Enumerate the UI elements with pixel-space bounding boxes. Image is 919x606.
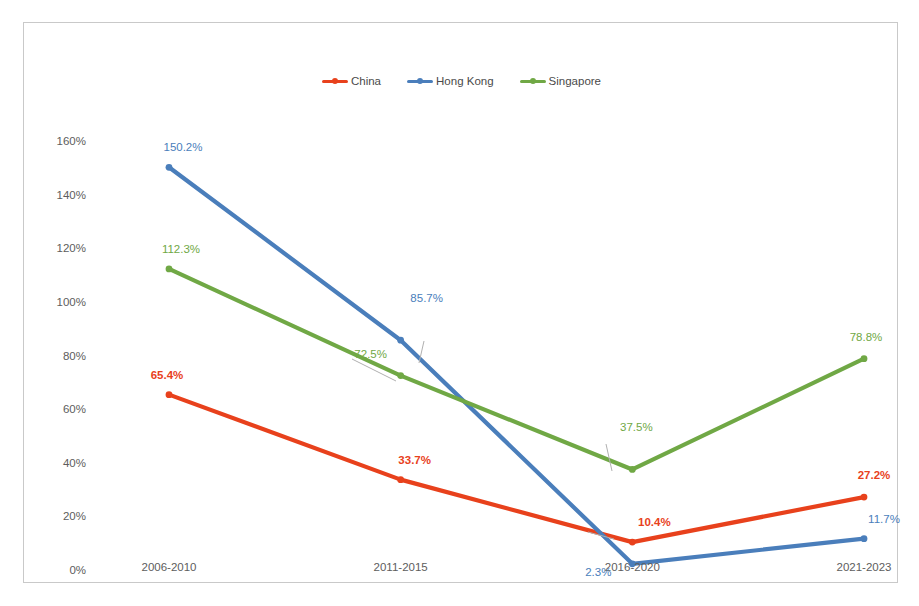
- plot-area: [24, 23, 899, 584]
- data-label: 72.5%: [354, 348, 387, 360]
- y-axis-tick-label: 60%: [40, 403, 86, 415]
- y-axis-tick-label: 140%: [40, 189, 86, 201]
- y-axis-tick-label: 80%: [40, 350, 86, 362]
- data-point-marker: [861, 355, 868, 362]
- y-axis-tick-label: 40%: [40, 457, 86, 469]
- chart-frame: ChinaHong KongSingapore 160%140%120%100%…: [23, 22, 898, 583]
- data-label: 33.7%: [398, 454, 431, 466]
- series-line: [169, 269, 864, 470]
- data-point-marker: [166, 265, 173, 272]
- data-label: 85.7%: [410, 292, 443, 304]
- data-point-marker: [397, 337, 404, 344]
- data-label: 65.4%: [151, 369, 184, 381]
- y-axis: 160%140%120%100%80%60%40%20%0%: [34, 23, 86, 584]
- data-label: 112.3%: [162, 243, 200, 255]
- series-china: [166, 391, 868, 545]
- series-line: [169, 167, 864, 564]
- series-hong-kong: [166, 164, 868, 567]
- x-axis-tick-label: 2021-2023: [837, 561, 892, 573]
- data-point-marker: [397, 476, 404, 483]
- series-line: [169, 395, 864, 542]
- data-label: 78.8%: [850, 331, 883, 343]
- data-label: 150.2%: [163, 141, 202, 153]
- data-point-marker: [629, 466, 636, 473]
- data-label: 2.3%: [585, 566, 611, 578]
- y-axis-tick-label: 20%: [40, 510, 86, 522]
- chart-page: ChinaHong KongSingapore 160%140%120%100%…: [0, 0, 919, 606]
- data-label: 27.2%: [858, 469, 891, 481]
- data-point-marker: [861, 535, 868, 542]
- y-axis-tick-label: 100%: [40, 296, 86, 308]
- x-axis-tick-label: 2016-2020: [605, 561, 660, 573]
- x-axis: 2006-20102011-20152016-20202021-2023: [24, 547, 899, 577]
- data-point-marker: [397, 372, 404, 379]
- data-label: 11.7%: [868, 513, 900, 525]
- x-axis-tick-label: 2011-2015: [374, 561, 428, 573]
- y-axis-tick-label: 120%: [40, 242, 86, 254]
- x-axis-tick-label: 2006-2010: [142, 561, 197, 573]
- data-point-marker: [861, 494, 868, 501]
- data-label: 10.4%: [638, 516, 671, 528]
- data-point-marker: [629, 539, 636, 546]
- y-axis-tick-label: 160%: [40, 135, 86, 147]
- data-label: 37.5%: [620, 421, 653, 433]
- series-singapore: [166, 265, 868, 472]
- data-point-marker: [166, 164, 173, 171]
- data-point-marker: [166, 391, 173, 398]
